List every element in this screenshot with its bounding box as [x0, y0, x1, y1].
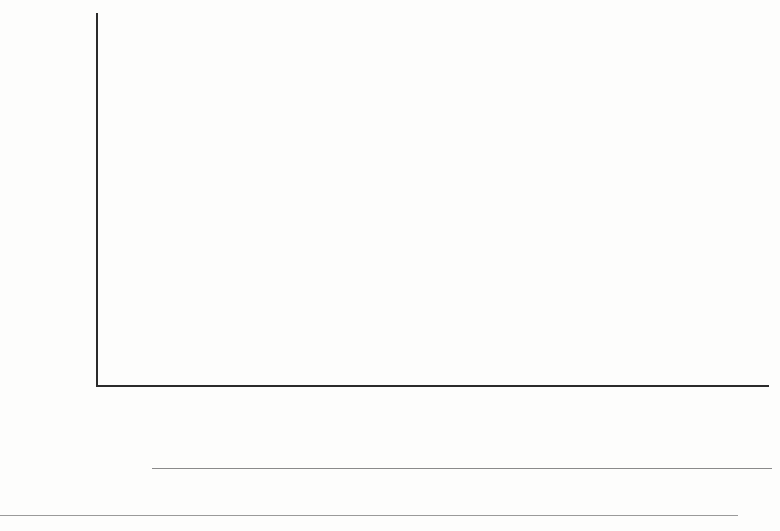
chart-legend [152, 481, 772, 501]
legend-divider [152, 468, 772, 469]
plot-area [0, 0, 780, 531]
source-divider [0, 515, 738, 516]
chart-figure [0, 0, 780, 531]
